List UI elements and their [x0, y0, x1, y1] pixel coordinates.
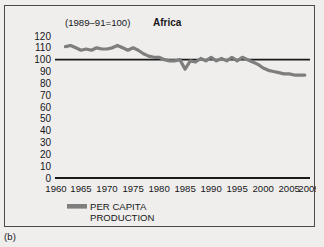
y-tick-70: 70 — [40, 90, 52, 101]
y-axis-tick-labels: 120 110 100 90 80 70 60 50 40 30 20 10 0 — [34, 31, 51, 184]
x-tick-2009: 2009 — [298, 183, 316, 194]
y-tick-110: 110 — [35, 42, 51, 53]
x-tick-1995: 1995 — [226, 183, 247, 194]
y-tick-0: 0 — [45, 173, 51, 184]
x-tick-1980: 1980 — [148, 183, 169, 194]
y-tick-30: 30 — [40, 137, 52, 148]
y-tick-90: 90 — [40, 66, 52, 77]
legend-swatch-per-capita-production — [67, 204, 87, 209]
chart-legend: PER CAPITA PRODUCTION — [67, 201, 155, 224]
x-tick-1990: 1990 — [200, 183, 221, 194]
figure-panel: (1989–91=100) Africa 120 110 100 90 80 7… — [0, 0, 324, 247]
y-tick-120: 120 — [34, 31, 51, 42]
x-tick-2000: 2000 — [252, 183, 273, 194]
legend-label-line1: PER CAPITA — [90, 201, 147, 212]
y-tick-20: 20 — [40, 149, 52, 160]
y-tick-60: 60 — [40, 102, 52, 113]
x-tick-1985: 1985 — [174, 183, 195, 194]
chart-subtitle: (1989–91=100) — [65, 17, 130, 28]
chart-title: Africa — [153, 17, 182, 28]
line-chart: (1989–91=100) Africa 120 110 100 90 80 7… — [5, 6, 316, 228]
panel-label: (b) — [4, 231, 16, 242]
y-tick-40: 40 — [40, 125, 52, 136]
legend-label-line2: PRODUCTION — [90, 212, 155, 223]
chart-frame: (1989–91=100) Africa 120 110 100 90 80 7… — [4, 5, 315, 227]
x-tick-1970: 1970 — [96, 183, 117, 194]
y-tick-100: 100 — [34, 54, 51, 65]
x-tick-1975: 1975 — [122, 183, 143, 194]
y-tick-80: 80 — [40, 78, 52, 89]
x-tick-1960: 1960 — [45, 183, 66, 194]
x-tick-2005: 2005 — [279, 183, 300, 194]
x-axis-tick-labels: 1960 1965 1970 1975 1980 1985 1990 1995 … — [45, 183, 316, 194]
y-tick-10: 10 — [40, 161, 52, 172]
x-tick-1965: 1965 — [70, 183, 91, 194]
y-tick-50: 50 — [40, 113, 52, 124]
